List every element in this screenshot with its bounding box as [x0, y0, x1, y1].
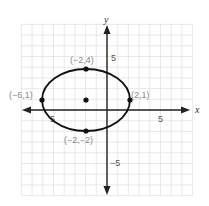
x-axis-name: x — [194, 104, 200, 115]
label-top-point: (−2,4) — [70, 55, 94, 65]
point-bottom — [83, 128, 88, 133]
point-left — [39, 97, 44, 102]
x-tick-5: 5 — [158, 114, 163, 124]
x-axis-left-arrow-icon — [22, 107, 31, 114]
label-bottom-point: (−2,−2) — [64, 135, 93, 145]
point-top — [83, 66, 88, 71]
point-center — [83, 97, 88, 102]
ellipse-graph: x y 5 5 5 −5 (−2,4) (−6,1) (2,1) (−2,−2) — [0, 0, 209, 206]
label-right-point: (2,1) — [131, 90, 150, 100]
x-axis-right-arrow-icon — [181, 107, 190, 114]
y-axis-name: y — [103, 14, 109, 25]
y-tick-neg5: −5 — [110, 158, 120, 168]
label-left-point: (−6,1) — [9, 90, 33, 100]
y-tick-5: 5 — [111, 53, 116, 63]
y-axis-up-arrow-icon — [104, 25, 111, 34]
x-axis: x — [22, 104, 200, 115]
y-axis-down-arrow-icon — [104, 186, 111, 195]
